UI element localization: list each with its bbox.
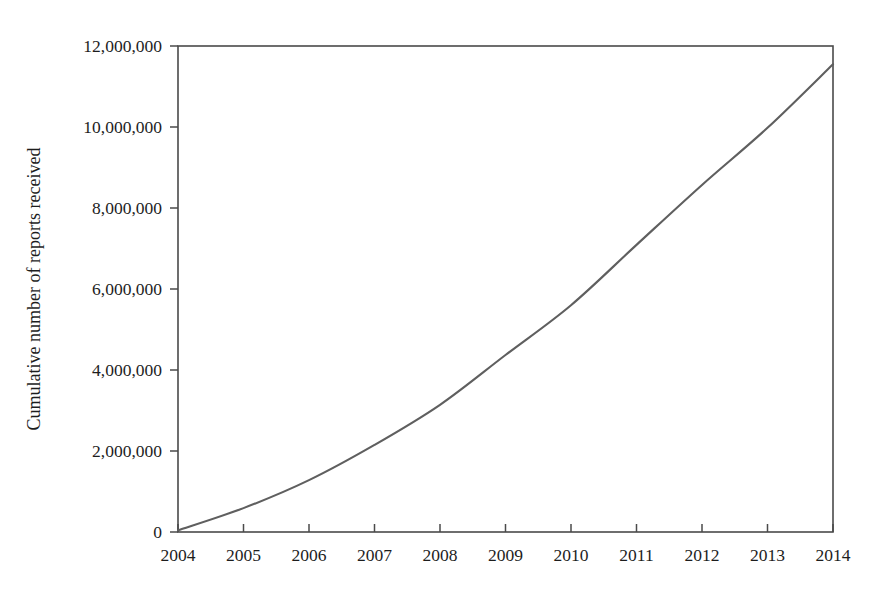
x-tick-label-2006: 2006 — [292, 545, 327, 565]
x-tick-label-2014: 2014 — [816, 545, 851, 565]
x-tick-labels: 2004 2005 2006 2007 2008 2009 2010 2011 … — [161, 545, 851, 565]
x-tick-marks — [178, 524, 833, 532]
data-series-line — [178, 64, 833, 530]
chart-figure: 0 2,000,000 4,000,000 6,000,000 8,000,00… — [0, 0, 881, 601]
x-tick-label-2011: 2011 — [619, 545, 653, 565]
y-tick-label-12000000: 12,000,000 — [83, 36, 162, 56]
y-tick-label-2000000: 2,000,000 — [92, 441, 162, 461]
x-tick-label-2004: 2004 — [161, 545, 196, 565]
line-chart: 0 2,000,000 4,000,000 6,000,000 8,000,00… — [0, 0, 881, 601]
x-tick-label-2005: 2005 — [226, 545, 261, 565]
plot-frame — [178, 46, 833, 532]
y-tick-label-8000000: 8,000,000 — [92, 198, 162, 218]
x-tick-label-2007: 2007 — [357, 545, 392, 565]
y-tick-label-10000000: 10,000,000 — [83, 117, 162, 137]
y-tick-label-4000000: 4,000,000 — [92, 360, 162, 380]
y-tick-marks — [170, 46, 178, 532]
y-tick-label-0: 0 — [153, 522, 162, 542]
x-tick-label-2010: 2010 — [554, 545, 589, 565]
x-tick-label-2012: 2012 — [685, 545, 720, 565]
x-tick-label-2008: 2008 — [423, 545, 458, 565]
y-tick-label-6000000: 6,000,000 — [92, 279, 162, 299]
x-tick-label-2013: 2013 — [750, 545, 785, 565]
y-tick-labels: 0 2,000,000 4,000,000 6,000,000 8,000,00… — [83, 36, 162, 542]
x-tick-label-2009: 2009 — [488, 545, 523, 565]
y-axis-title: Cumulative number of reports received — [24, 148, 44, 431]
